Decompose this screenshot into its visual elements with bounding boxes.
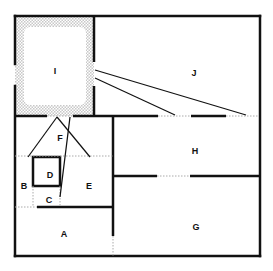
- room-label-a: A: [61, 229, 68, 239]
- room-label-g: G: [192, 222, 199, 232]
- room-label-i: I: [54, 66, 57, 76]
- floor-plan-diagram: I J F H D B E C G A: [0, 0, 273, 271]
- room-label-b: B: [21, 181, 28, 191]
- room-label-c: C: [46, 195, 53, 205]
- room-label-f: F: [57, 133, 63, 143]
- room-label-h: H: [192, 146, 199, 156]
- room-label-d: D: [47, 170, 54, 180]
- room-label-e: E: [86, 181, 92, 191]
- room-label-j: J: [191, 68, 196, 78]
